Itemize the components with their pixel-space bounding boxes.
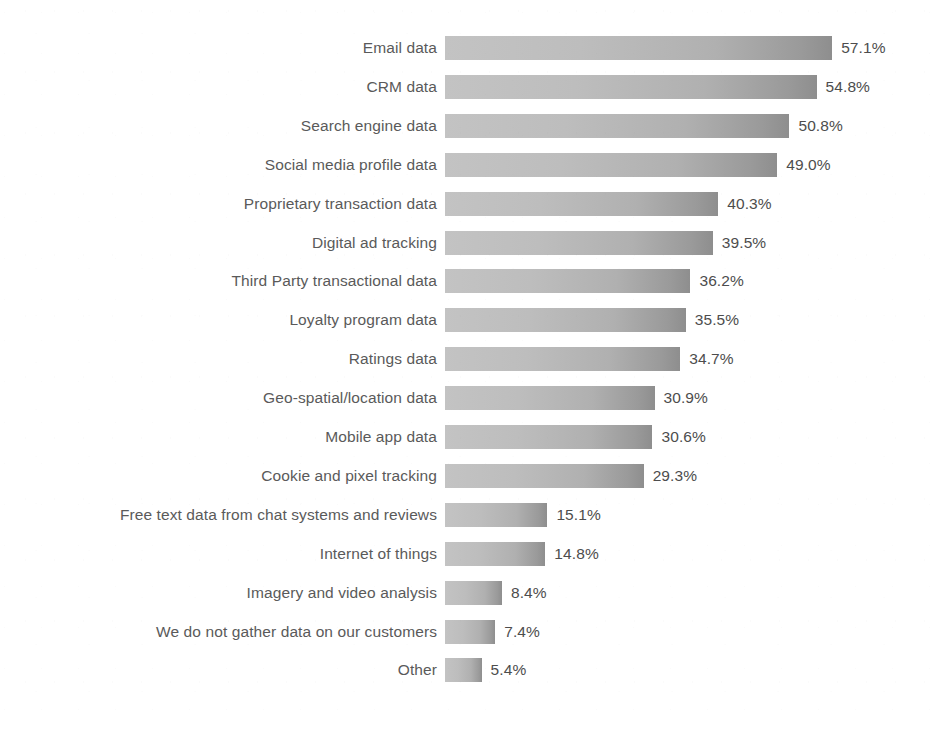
bar: [445, 503, 547, 527]
bar: [445, 231, 713, 255]
category-label: CRM data: [7, 75, 437, 99]
bar-group: 50.8%: [445, 114, 843, 138]
bar: [445, 269, 690, 293]
bar-group: 29.3%: [445, 464, 697, 488]
bar-group: 57.1%: [445, 36, 886, 60]
bar: [445, 347, 680, 371]
category-label: Email data: [7, 36, 437, 60]
value-label: 39.5%: [722, 231, 766, 255]
bar-row: Geo-spatial/location data30.9%: [0, 386, 930, 410]
category-label: Third Party transactional data: [7, 269, 437, 293]
bar-group: 15.1%: [445, 503, 601, 527]
value-label: 29.3%: [653, 464, 697, 488]
bar: [445, 36, 832, 60]
plot-area: Email data57.1%CRM data54.8%Search engin…: [0, 0, 930, 734]
bar-row: Loyalty program data35.5%: [0, 308, 930, 332]
value-label: 35.5%: [695, 308, 739, 332]
bar-group: 35.5%: [445, 308, 739, 332]
category-label: Other: [7, 658, 437, 682]
value-label: 36.2%: [699, 269, 743, 293]
bar-group: 34.7%: [445, 347, 734, 371]
bar-row: Search engine data50.8%: [0, 114, 930, 138]
bar-chart: Email data57.1%CRM data54.8%Search engin…: [0, 0, 930, 734]
bar-row: Email data57.1%: [0, 36, 930, 60]
category-label: Mobile app data: [7, 425, 437, 449]
value-label: 34.7%: [689, 347, 733, 371]
bar: [445, 386, 655, 410]
value-label: 8.4%: [511, 581, 547, 605]
bar-row: Other5.4%: [0, 658, 930, 682]
value-label: 30.6%: [661, 425, 705, 449]
category-label: Internet of things: [7, 542, 437, 566]
category-label: Cookie and pixel tracking: [7, 464, 437, 488]
value-label: 50.8%: [798, 114, 842, 138]
bar-row: CRM data54.8%: [0, 75, 930, 99]
bar: [445, 542, 545, 566]
bar: [445, 581, 502, 605]
bar-group: 30.6%: [445, 425, 706, 449]
category-label: Imagery and video analysis: [7, 581, 437, 605]
category-label: Geo-spatial/location data: [7, 386, 437, 410]
bar-group: 36.2%: [445, 269, 744, 293]
bar: [445, 658, 482, 682]
bar-group: 5.4%: [445, 658, 526, 682]
bar-group: 7.4%: [445, 620, 540, 644]
bar: [445, 192, 718, 216]
value-label: 40.3%: [727, 192, 771, 216]
bar: [445, 153, 777, 177]
bar: [445, 308, 686, 332]
bar-row: Social media profile data49.0%: [0, 153, 930, 177]
value-label: 54.8%: [826, 75, 870, 99]
category-label: Loyalty program data: [7, 308, 437, 332]
category-label: Social media profile data: [7, 153, 437, 177]
bar-group: 30.9%: [445, 386, 708, 410]
bar-row: Internet of things14.8%: [0, 542, 930, 566]
value-label: 57.1%: [841, 36, 885, 60]
category-label: Free text data from chat systems and rev…: [7, 503, 437, 527]
bar-row: We do not gather data on our customers7.…: [0, 620, 930, 644]
value-label: 7.4%: [504, 620, 540, 644]
bar: [445, 464, 644, 488]
value-label: 30.9%: [664, 386, 708, 410]
value-label: 14.8%: [554, 542, 598, 566]
bar-group: 49.0%: [445, 153, 831, 177]
bar-group: 39.5%: [445, 231, 766, 255]
value-label: 15.1%: [556, 503, 600, 527]
category-label: Digital ad tracking: [7, 231, 437, 255]
bar-row: Cookie and pixel tracking29.3%: [0, 464, 930, 488]
category-label: Search engine data: [7, 114, 437, 138]
bar: [445, 75, 817, 99]
bar-group: 8.4%: [445, 581, 547, 605]
category-label: We do not gather data on our customers: [7, 620, 437, 644]
bar: [445, 114, 789, 138]
bar: [445, 620, 495, 644]
bar-row: Free text data from chat systems and rev…: [0, 503, 930, 527]
bar-group: 54.8%: [445, 75, 870, 99]
bar-group: 14.8%: [445, 542, 599, 566]
bar-row: Third Party transactional data36.2%: [0, 269, 930, 293]
value-label: 5.4%: [491, 658, 527, 682]
category-label: Proprietary transaction data: [7, 192, 437, 216]
bar-row: Ratings data34.7%: [0, 347, 930, 371]
bar-row: Mobile app data30.6%: [0, 425, 930, 449]
value-label: 49.0%: [786, 153, 830, 177]
category-label: Ratings data: [7, 347, 437, 371]
bar-group: 40.3%: [445, 192, 772, 216]
bar: [445, 425, 652, 449]
bar-row: Digital ad tracking39.5%: [0, 231, 930, 255]
bar-row: Imagery and video analysis8.4%: [0, 581, 930, 605]
bar-row: Proprietary transaction data40.3%: [0, 192, 930, 216]
